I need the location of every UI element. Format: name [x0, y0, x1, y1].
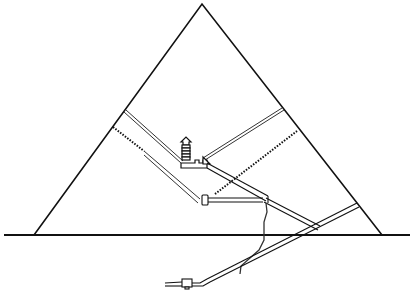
ascending-passage	[264, 198, 320, 230]
grand-gallery	[207, 163, 268, 203]
well-shaft	[240, 203, 267, 274]
descending-passage	[207, 203, 359, 282]
relieving-chambers	[181, 137, 191, 160]
pyramid-cross-section-diagram	[0, 0, 413, 293]
subterranean-chamber	[165, 279, 210, 289]
queens-passage-left	[144, 151, 200, 203]
queens-chamber	[202, 195, 263, 205]
